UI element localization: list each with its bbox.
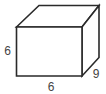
width-dimension-label: 6 (48, 80, 55, 94)
height-dimension-label: 6 (4, 44, 11, 58)
prism-diagram: 6 6 9 (0, 0, 106, 94)
depth-dimension-label: 9 (93, 67, 100, 81)
prism-figure: 6 6 9 (0, 0, 106, 94)
box-front-face (17, 27, 83, 76)
